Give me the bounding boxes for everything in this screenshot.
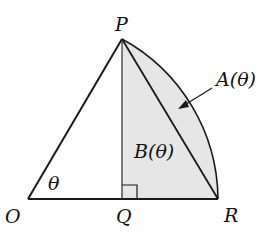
label-theta: θ	[48, 172, 60, 194]
label-o: O	[5, 205, 21, 227]
label-a-theta: A(θ)	[214, 68, 256, 90]
label-r: R	[223, 204, 238, 226]
diagram-canvas: P O Q R θ B(θ) A(θ)	[0, 0, 273, 238]
label-p: P	[114, 13, 129, 35]
segment-op	[28, 39, 122, 199]
label-q: Q	[116, 205, 132, 227]
label-b-theta: B(θ)	[133, 140, 174, 162]
